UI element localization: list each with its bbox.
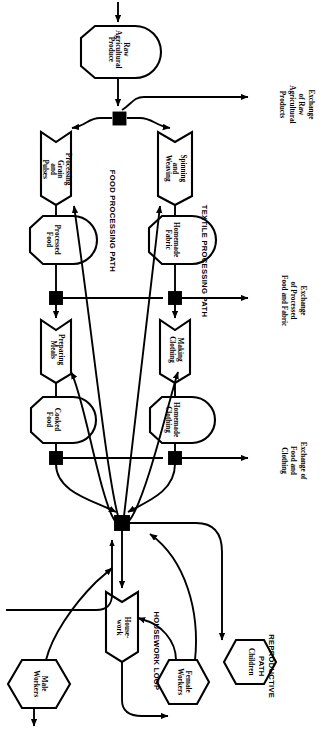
node-label-homemade-fabric: Homemade Fabric	[163, 212, 178, 268]
edge-labor-to-spinning-weaving	[124, 206, 160, 516]
node-label-female-workers: Female Workers	[175, 660, 190, 704]
edge-labor-to-children-bus	[129, 523, 222, 622]
edge-male-workers-to-labor	[46, 568, 112, 660]
junction-processed-food	[50, 292, 62, 304]
junction-raw	[114, 113, 126, 125]
node-label-preparing-meals: Preparing Meals	[48, 322, 63, 378]
path-label-housework-loop: HOUSEWORK LOOP	[152, 596, 160, 706]
node-label-spinning-and-weaving: Spinning and Weaving	[164, 135, 187, 201]
junction-cooked-food	[50, 452, 62, 464]
junction-homemade-clothing	[169, 452, 181, 464]
node-label-raw-agricultural-produce: Raw Agricultural Produce	[107, 14, 130, 84]
junction-homemade-fabric	[169, 292, 181, 304]
node-label-processed-food: Processed Food	[44, 212, 59, 268]
exchange-label-food-clothing: Exchange of Food and Clothing	[277, 406, 306, 516]
node-label-male-workers: Male Workers	[31, 662, 46, 706]
edge-junction-to-spinning-weaving	[127, 118, 170, 128]
node-shape-processed-food	[30, 216, 97, 264]
edge-exchange-raw	[122, 97, 248, 110]
exchange-label-processed: Exchange of Processed Food and Fabric	[277, 246, 306, 356]
exchange-label-raw: Exchange of Raw Agricultural Products	[277, 49, 316, 159]
path-label-food-processing-path: FOOD PROCESSING PATH	[108, 156, 116, 286]
edge-junction-to-processing-grain	[72, 118, 112, 128]
node-label-housework: House- work	[114, 603, 129, 653]
edge-labor-to-preparing-meals	[71, 372, 115, 521]
node-label-homemade-clothing: Homemade Clothing	[163, 392, 178, 448]
node-label-children: Children	[246, 640, 254, 684]
diagram-canvas: Raw Agricultural Produce Processing Grai…	[0, 0, 336, 730]
node-label-cooked-food: Cooked Food	[44, 395, 59, 445]
node-label-processing-grain-and-pulses: Processing Grain and Pulses	[41, 136, 71, 202]
edge-clothing-to-labor	[128, 464, 175, 512]
path-label-textile-processing-path: TEXTILE PROCESSING PATH	[200, 186, 208, 336]
path-label-reproductive-path: REPRODUCTIVE PATH	[256, 616, 277, 716]
node-label-making-clothing: Making Clothing	[167, 322, 182, 378]
junction-labor	[115, 516, 129, 530]
